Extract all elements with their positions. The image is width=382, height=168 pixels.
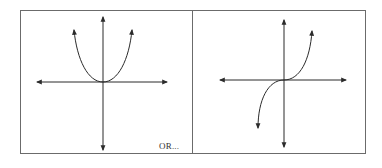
- graphs: [0, 0, 382, 168]
- right-axes: [220, 20, 346, 147]
- left-axes: [37, 17, 167, 150]
- or-label: OR...: [159, 141, 179, 151]
